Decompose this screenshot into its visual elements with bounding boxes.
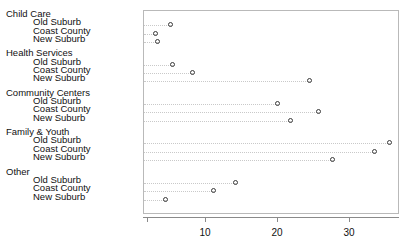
x-tick-label-20: 20 (271, 227, 282, 238)
data-point-family-youth-coast-county[interactable] (372, 149, 377, 154)
leader-line-community-centers-new-suburb (144, 121, 291, 122)
data-point-child-care-old-suburb[interactable] (168, 22, 173, 27)
data-point-child-care-new-suburb[interactable] (155, 39, 160, 44)
plot-panel (143, 10, 399, 214)
leader-line-community-centers-coast-county (144, 112, 319, 113)
data-point-community-centers-coast-county[interactable] (316, 109, 321, 114)
leader-line-health-services-new-suburb (144, 81, 310, 82)
x-tick-3 (349, 217, 350, 222)
data-point-other-old-suburb[interactable] (233, 180, 238, 185)
data-point-family-youth-new-suburb[interactable] (330, 157, 335, 162)
data-point-other-new-suburb[interactable] (163, 197, 168, 202)
leader-line-child-care-old-suburb (144, 25, 171, 26)
data-point-family-youth-old-suburb[interactable] (387, 140, 392, 145)
data-point-child-care-coast-county[interactable] (153, 31, 158, 36)
x-axis: 102030 (143, 217, 399, 247)
row-label-community-centers-new-suburb: New Suburb (33, 113, 85, 123)
x-tick-label-10: 10 (199, 227, 210, 238)
leader-line-community-centers-old-suburb (144, 104, 278, 105)
leader-line-family-youth-coast-county (144, 152, 375, 153)
row-label-family-youth-new-suburb: New Suburb (33, 152, 85, 162)
row-label-health-services-new-suburb: New Suburb (33, 73, 85, 83)
leader-line-health-services-old-suburb (144, 65, 173, 66)
row-label-other-new-suburb: New Suburb (33, 192, 85, 202)
row-label-child-care-new-suburb: New Suburb (33, 34, 85, 44)
leader-line-health-services-coast-county (144, 73, 193, 74)
x-tick-0 (147, 217, 148, 222)
dot-plot-figure: Child CareOld SuburbCoast CountyNew Subu… (0, 0, 411, 248)
data-point-health-services-old-suburb[interactable] (170, 62, 175, 67)
group-label-other: Other (6, 167, 30, 177)
data-point-health-services-new-suburb[interactable] (307, 78, 312, 83)
data-point-health-services-coast-county[interactable] (190, 70, 195, 75)
x-tick-2 (277, 217, 278, 222)
data-point-community-centers-new-suburb[interactable] (288, 118, 293, 123)
leader-line-other-old-suburb (144, 183, 236, 184)
data-point-community-centers-old-suburb[interactable] (275, 101, 280, 106)
x-tick-1 (205, 217, 206, 222)
leader-line-family-youth-new-suburb (144, 160, 333, 161)
category-label-column: Child CareOld SuburbCoast CountyNew Subu… (0, 0, 140, 248)
leader-line-other-coast-county (144, 191, 214, 192)
leader-line-family-youth-old-suburb (144, 143, 390, 144)
x-axis-line (143, 217, 399, 218)
x-tick-label-30: 30 (343, 227, 354, 238)
data-point-other-coast-county[interactable] (211, 188, 216, 193)
